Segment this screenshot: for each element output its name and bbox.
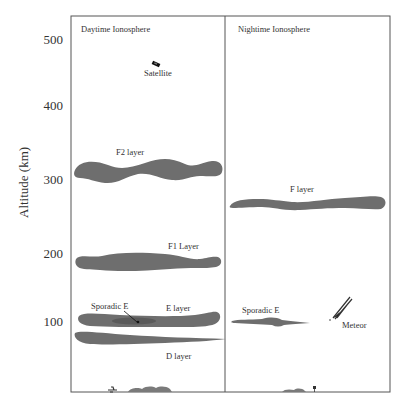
y-tick-300: 300 — [29, 172, 63, 188]
sporadic-e-day-shape — [112, 318, 156, 325]
y-tick-400: 400 — [29, 98, 63, 114]
tree-icon — [313, 386, 316, 392]
satellite-label: Satellite — [144, 68, 172, 78]
f1-layer-shape — [75, 253, 221, 271]
diagram-canvas — [0, 0, 403, 407]
f-layer-night-label: F layer — [290, 184, 314, 194]
f-layer-night-shape — [230, 196, 386, 210]
satellite-icon — [152, 61, 161, 68]
y-tick-200: 200 — [29, 246, 63, 262]
d-layer-label: D layer — [166, 351, 191, 361]
airplane-icon — [108, 387, 117, 392]
nighttime-panel-title: Nightime Ionosphere — [238, 24, 310, 34]
y-tick-500: 500 — [29, 32, 63, 48]
day-ground-clouds — [128, 387, 172, 392]
sporadic-e-night-shape — [231, 318, 310, 327]
f2-layer-label: F2 layer — [116, 147, 144, 157]
sporadic-e-day-label: Sporadic E — [91, 301, 129, 311]
sporadic-e-pointer-dot — [137, 321, 140, 324]
f1-layer-label: F1 Layer — [168, 241, 199, 251]
night-ground-clouds — [282, 389, 306, 392]
meteor-label: Meteor — [342, 320, 367, 330]
e-layer-label: E layer — [166, 303, 190, 313]
d-layer-shape — [75, 332, 226, 345]
y-tick-100: 100 — [29, 314, 63, 330]
daytime-panel-title: Daytime Ionosphere — [81, 24, 150, 34]
f2-layer-shape — [74, 159, 222, 183]
sporadic-e-night-label: Sporadic E — [242, 305, 280, 315]
meteor-icon — [329, 297, 352, 321]
